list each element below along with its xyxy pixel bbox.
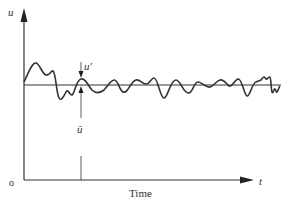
origin-label: o xyxy=(9,178,14,188)
fluctuation-label: u' xyxy=(84,61,92,72)
mean-label: ū xyxy=(77,124,83,135)
x-axis-label: t xyxy=(259,176,262,187)
mean-arrow-icon xyxy=(79,86,84,93)
x-axis-arrow-icon xyxy=(240,177,254,184)
y-axis-arrow-icon xyxy=(21,8,28,22)
x-axis-caption: Time xyxy=(129,188,152,199)
y-axis-label: u xyxy=(8,7,14,18)
fluctuation-arrow-icon xyxy=(79,71,84,78)
signal-curve xyxy=(24,63,280,99)
turbulence-diagram xyxy=(0,0,294,209)
